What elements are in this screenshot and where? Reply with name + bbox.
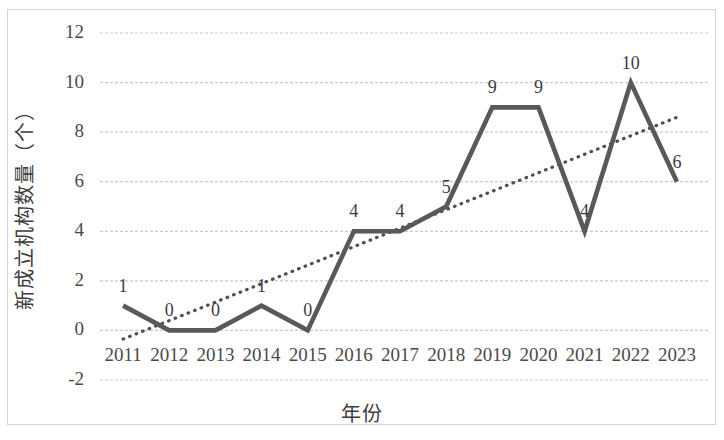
y-axis-tick-label: 2 [38, 269, 84, 291]
data-point-label: 1 [103, 276, 143, 297]
data-point-label: 9 [518, 77, 558, 98]
data-point-label: 4 [334, 201, 374, 222]
y-axis-tick-label: 12 [38, 21, 84, 43]
y-axis-tick-label: 6 [38, 170, 84, 192]
data-point-label: 10 [611, 53, 651, 74]
y-axis-tick-label: -2 [38, 368, 84, 390]
data-point-label: 0 [288, 300, 328, 321]
data-point-label: 4 [565, 201, 605, 222]
data-point-label: 5 [426, 177, 466, 198]
y-axis-title-wrapper: 新成立机构数量（个） [6, 90, 40, 320]
y-axis-tick-label: 10 [38, 71, 84, 93]
y-axis-tick-label: 4 [38, 219, 84, 241]
x-axis-tick-label: 2023 [647, 344, 707, 366]
data-point-label: 1 [242, 276, 282, 297]
data-point-label: 9 [472, 77, 512, 98]
data-point-label: 0 [195, 300, 235, 321]
data-point-label: 6 [657, 152, 697, 173]
y-axis-tick-label: 8 [38, 120, 84, 142]
x-axis-title: 年份 [0, 398, 724, 427]
y-axis-tick-label: 0 [38, 318, 84, 340]
chart-container: 121086420-2 2011201220132014201520162017… [0, 0, 724, 440]
y-axis-title: 新成立机构数量（个） [9, 100, 38, 310]
data-point-label: 4 [380, 201, 420, 222]
data-point-label: 0 [149, 300, 189, 321]
